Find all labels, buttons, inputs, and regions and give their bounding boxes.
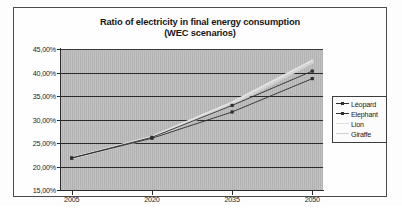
x-axis-tick-label: 2005 [52,195,92,204]
series-line [72,71,313,158]
legend-swatch-icon [336,110,349,118]
y-axis-tick-mark [57,96,61,97]
legend-swatch-icon [336,120,349,128]
data-point-marker [70,156,73,159]
y-axis-tick-label: 20,00% [14,163,56,172]
y-axis-tick-label: 35,00% [14,92,56,101]
data-point-marker [231,104,234,107]
chart-title: Ratio of electricity in final energy con… [14,17,386,39]
data-point-marker [311,69,314,72]
x-axis-tick-label: 2035 [212,195,252,204]
chart-title-line2: (WEC scenarios) [14,28,386,39]
y-axis-tick-label: 45,00% [14,45,56,54]
y-axis-tick-mark [57,49,61,50]
series-line [72,61,313,158]
x-axis-line [60,190,324,191]
legend-item-lion[interactable]: Lion [336,119,384,129]
legend-item-lopard[interactable]: Léopard [336,99,384,109]
legend-item-label: Lion [351,120,364,129]
data-point-marker [311,77,314,80]
legend-item-elephant[interactable]: Elephant [336,109,384,119]
data-point-marker [150,137,153,140]
legend-item-label: Elephant [351,110,378,119]
legend-item-label: Léopard [351,100,376,109]
x-axis-tick-label: 2020 [132,195,172,204]
y-axis-tick-label: 30,00% [14,116,56,125]
y-axis-tick-label: 40,00% [14,69,56,78]
scan-edge [0,206,402,211]
y-axis-tick-mark [57,190,61,191]
plot-area [61,49,323,190]
x-axis-tick-mark [152,191,153,195]
chart-title-line1: Ratio of electricity in final energy con… [100,17,300,27]
legend-item-label: Giraffe [351,130,371,139]
y-axis-tick-mark [57,143,61,144]
y-axis-tick-label: 25,00% [14,139,56,148]
legend-item-giraffe[interactable]: Giraffe [336,129,384,139]
series-line [72,79,313,158]
chart-frame: Ratio of electricity in final energy con… [13,7,387,197]
screenshot-page: Ratio of electricity in final energy con… [0,0,402,211]
data-point-marker [231,110,234,113]
x-axis-tick-label: 2050 [292,195,332,204]
y-axis-tick-label: 15,00% [14,186,56,195]
y-axis-tick-mark [57,73,61,74]
series-layer [61,49,323,190]
legend-swatch-icon [336,100,349,108]
x-axis-tick-mark [232,191,233,195]
chart-legend[interactable]: LéopardElephantLionGiraffe [332,96,387,143]
legend-swatch-icon [336,130,349,138]
series-line [72,63,313,158]
x-axis-tick-mark [72,191,73,195]
y-axis-tick-mark [57,167,61,168]
y-axis-tick-mark [57,120,61,121]
x-axis-tick-mark [312,191,313,195]
